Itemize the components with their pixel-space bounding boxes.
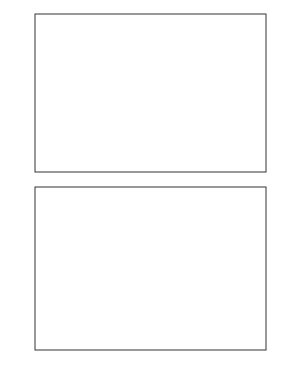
figure bbox=[0, 0, 299, 376]
bottom-panel-frame bbox=[35, 187, 266, 350]
top-panel-frame bbox=[35, 14, 266, 172]
bottom-panel bbox=[35, 187, 266, 350]
top-panel bbox=[35, 14, 266, 172]
